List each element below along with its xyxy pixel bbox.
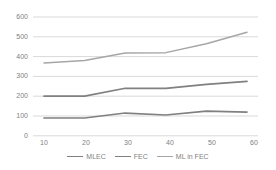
ytick-label-600: 600 [6,13,28,20]
legend-label-mlec: MLEC [86,152,105,161]
legend-item-fec[interactable]: FEC [115,152,148,161]
legend-swatch-ml-in-fec [157,156,173,157]
ytick-label-100: 100 [6,112,28,119]
xtick-label-10: 10 [32,139,56,146]
xtick-label-20: 20 [74,139,98,146]
xtick-label-50: 50 [200,139,224,146]
series-line-fec [44,81,247,96]
legend-item-mlec[interactable]: MLEC [67,152,105,161]
legend-swatch-fec [115,156,131,157]
legend-swatch-mlec [67,156,83,157]
series-lines [44,32,247,118]
legend-label-ml-in-fec: ML in FEC [176,152,209,161]
legend-label-fec: FEC [134,152,148,161]
xtick-label-40: 40 [158,139,182,146]
legend-item-ml-in-fec[interactable]: ML in FEC [157,152,209,161]
ytick-label-0: 0 [6,132,28,139]
chart-legend: MLEC FEC ML in FEC [0,152,276,161]
ytick-label-400: 400 [6,53,28,60]
xtick-label-60: 60 [242,139,266,146]
ytick-label-300: 300 [6,72,28,79]
line-chart: 600 500 400 300 200 100 0 10 20 30 40 50… [0,0,276,170]
series-line-mlec [44,111,247,118]
xtick-label-30: 30 [116,139,140,146]
ytick-label-200: 200 [6,92,28,99]
ytick-label-500: 500 [6,33,28,40]
